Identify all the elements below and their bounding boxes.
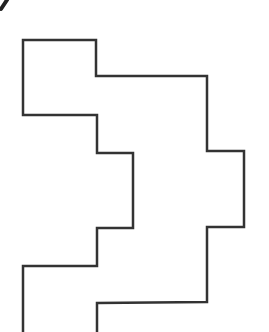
corner-stroke-mark: [1, 0, 7, 9]
staircase-polygon-outline: [23, 40, 244, 332]
staircase-outline-diagram: [0, 0, 269, 332]
